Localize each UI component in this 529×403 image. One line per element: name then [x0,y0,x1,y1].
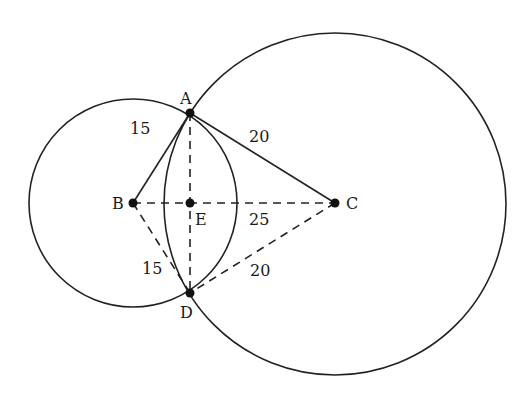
point-b [129,199,138,208]
label-e: E [195,210,207,229]
label-a: A [179,89,192,108]
point-a [186,109,195,118]
segment-bd-dashed [133,203,190,293]
point-c [331,199,340,208]
length-ab: 15 [130,119,150,138]
length-ac: 20 [249,127,269,146]
geometry-diagram: A B C D E 15 20 25 15 20 [0,0,529,403]
point-e [186,199,195,208]
label-c: C [346,194,358,213]
length-cd: 20 [250,261,270,280]
label-d: D [180,303,193,322]
label-b: B [112,194,124,213]
length-bc: 25 [249,210,269,229]
length-bd: 15 [142,259,162,278]
point-d [186,289,195,298]
